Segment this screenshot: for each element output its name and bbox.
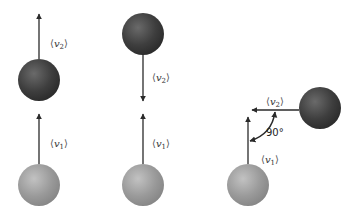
ball-1-light (122, 164, 164, 206)
ball-2-dark (18, 59, 60, 101)
label-v1-panel3: ⟨v1⟩ (261, 155, 279, 167)
ball-2-dark (122, 13, 164, 55)
label-v1-panel2: ⟨v1⟩ (152, 139, 170, 151)
angle-label: 90° (266, 128, 284, 138)
diagram-canvas (0, 0, 359, 218)
velocity-diagram: ⟨v2⟩ ⟨v1⟩ ⟨v2⟩ ⟨v1⟩ ⟨v2⟩ ⟨v1⟩ 90° (0, 0, 359, 218)
label-v2-panel2: ⟨v2⟩ (152, 73, 170, 85)
label-v2-panel1: ⟨v2⟩ (50, 39, 68, 51)
panel-perpendicular (227, 87, 341, 206)
label-v2-panel3: ⟨v2⟩ (266, 97, 284, 109)
ball-1-light (18, 164, 60, 206)
ball-1-light (227, 164, 269, 206)
ball-2-dark (299, 87, 341, 129)
panel-antiparallel (122, 13, 164, 206)
label-v1-panel1: ⟨v1⟩ (50, 139, 68, 151)
